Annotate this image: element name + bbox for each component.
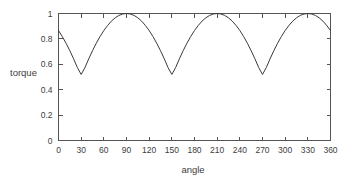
x-tick-label: 240	[233, 145, 247, 155]
x-tick-label: 360	[323, 145, 337, 155]
y-tick-label: 0.8	[41, 34, 53, 44]
x-axis-title: angle	[181, 164, 204, 175]
y-tick-label: 1	[48, 9, 53, 19]
x-tick-label: 210	[210, 145, 224, 155]
y-axis-tick-labels: 00.20.40.60.81	[41, 9, 53, 146]
x-tick-label: 270	[255, 145, 269, 155]
torque-angle-chart: 0306090120150180210240270300330360 00.20…	[0, 0, 347, 182]
x-tick-label: 90	[122, 145, 132, 155]
x-tick-label: 300	[278, 145, 292, 155]
x-tick-label: 30	[76, 145, 86, 155]
x-tick-label: 180	[187, 145, 201, 155]
x-tick-label: 120	[142, 145, 156, 155]
chart-canvas: 0306090120150180210240270300330360 00.20…	[0, 0, 347, 182]
x-axis-tick-labels: 0306090120150180210240270300330360	[56, 145, 338, 155]
y-tick-label: 0.4	[41, 85, 53, 95]
y-tick-label: 0	[48, 136, 53, 146]
x-axis-ticks	[59, 14, 331, 141]
y-axis-ticks	[59, 14, 331, 141]
x-tick-label: 150	[165, 145, 179, 155]
torque-curve	[59, 14, 331, 75]
x-tick-label: 0	[56, 145, 61, 155]
x-tick-label: 60	[99, 145, 109, 155]
plot-frame	[59, 14, 331, 141]
y-tick-label: 0.6	[41, 59, 53, 69]
y-axis-title: torque	[10, 67, 37, 78]
x-tick-label: 330	[301, 145, 315, 155]
y-tick-label: 0.2	[41, 110, 53, 120]
